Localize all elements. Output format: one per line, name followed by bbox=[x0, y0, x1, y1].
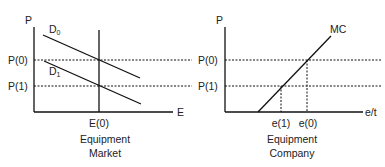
left-y-axis-label: P bbox=[25, 14, 32, 26]
mc-label: MC bbox=[330, 23, 347, 35]
diagram-canvas: P E P(0) P(1) D0 D1 E(0) Equipment Marke… bbox=[0, 0, 385, 167]
left-x-axis-label: E bbox=[177, 106, 184, 118]
right-caption-line2: Company bbox=[270, 147, 316, 159]
right-y-axis-label: P bbox=[216, 14, 223, 26]
left-caption-line2: Market bbox=[89, 147, 121, 159]
left-caption-line1: Equipment bbox=[80, 133, 130, 145]
e0-tick-label-right: e(0) bbox=[299, 117, 318, 129]
equipment-company-chart: P e/t P(0) P(1) MC e(1) e(0) Equipment C… bbox=[198, 14, 381, 159]
equipment-market-chart: P E P(0) P(1) D0 D1 E(0) Equipment Marke… bbox=[8, 14, 192, 159]
left-p1-label: P(1) bbox=[8, 80, 28, 92]
right-p0-label: P(0) bbox=[198, 54, 218, 66]
left-p0-label: P(0) bbox=[8, 54, 28, 66]
mc-curve bbox=[258, 36, 331, 112]
right-x-axis-label: e/t bbox=[365, 106, 377, 118]
e1-tick-label: e(1) bbox=[272, 117, 291, 129]
demand-curve-d1 bbox=[44, 61, 141, 104]
right-p1-label: P(1) bbox=[198, 80, 218, 92]
d0-label: D0 bbox=[49, 23, 61, 36]
right-caption-line1: Equipment bbox=[267, 133, 317, 145]
e0-tick-label: E(0) bbox=[89, 117, 109, 129]
